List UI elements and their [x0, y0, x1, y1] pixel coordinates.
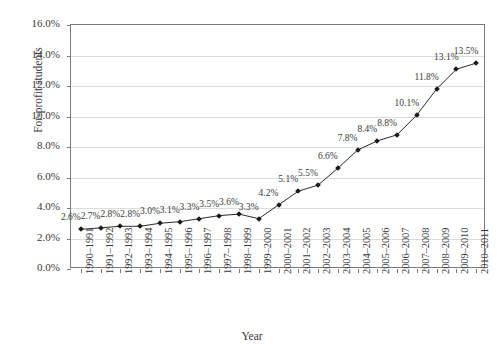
y-tick-label: 0.0%: [2, 262, 60, 273]
data-point-label: 8.4%: [357, 124, 377, 134]
data-point-label: 3.3%: [180, 202, 200, 212]
x-tick-mark: [417, 269, 418, 273]
data-point-label: 2.6%: [61, 212, 81, 222]
x-tick-mark: [397, 269, 398, 273]
data-point-label: 3.5%: [199, 199, 219, 209]
x-tick-label: 2006–2007: [400, 228, 411, 274]
y-tick-mark: [67, 269, 71, 270]
data-point-label: 3.1%: [160, 205, 180, 215]
data-point-label: 10.1%: [395, 98, 420, 108]
x-tick-label: 1997–1998: [222, 228, 233, 274]
data-point-label: 3.6%: [219, 197, 239, 207]
data-point-label: 2.8%: [120, 209, 140, 219]
x-tick-label: 1994–1995: [163, 228, 174, 274]
data-point-label: 7.8%: [338, 133, 358, 143]
x-tick-label: 2000–2001: [282, 228, 293, 274]
x-tick-label: 2007–2008: [420, 228, 431, 274]
x-tick-mark: [377, 269, 378, 273]
x-tick-mark: [279, 269, 280, 273]
x-tick-mark: [338, 269, 339, 273]
x-tick-label: 2008–2009: [440, 228, 451, 274]
x-tick-label: 1999–2000: [262, 228, 273, 274]
y-tick-label: 12.0%: [2, 79, 60, 90]
data-point-label: 13.5%: [454, 46, 479, 56]
x-tick-label: 1993–1994: [143, 228, 154, 274]
x-tick-label: 2010–2011: [479, 228, 490, 274]
x-tick-label: 2004–2005: [361, 228, 372, 274]
y-tick-label: 8.0%: [2, 140, 60, 151]
x-tick-label: 2001–2002: [301, 228, 312, 274]
x-tick-label: 2002–2003: [321, 228, 332, 274]
x-tick-mark: [298, 269, 299, 273]
x-tick-mark: [81, 269, 82, 273]
y-tick-label: 2.0%: [2, 232, 60, 243]
x-tick-mark: [140, 269, 141, 273]
data-point-label: 3.3%: [239, 202, 259, 212]
x-tick-label: 2005–2006: [380, 228, 391, 274]
x-tick-mark: [160, 269, 161, 273]
x-tick-mark: [456, 269, 457, 273]
y-tick-label: 6.0%: [2, 171, 60, 182]
x-tick-mark: [101, 269, 102, 273]
y-tick-label: 4.0%: [2, 201, 60, 212]
x-tick-label: 1996–1997: [202, 228, 213, 274]
data-point-label: 2.7%: [81, 211, 101, 221]
x-tick-mark: [358, 269, 359, 273]
x-tick-label: 1992–1993: [123, 228, 134, 274]
x-axis-title: Year: [0, 330, 504, 342]
data-point-label: 4.2%: [259, 188, 279, 198]
x-tick-mark: [476, 269, 477, 273]
x-tick-mark: [180, 269, 181, 273]
x-tick-label: 1995–1996: [183, 228, 194, 274]
data-point-label: 6.6%: [318, 151, 338, 161]
line-chart: For-profit students Year 0.0%2.0%4.0%6.0…: [0, 0, 504, 353]
x-tick-mark: [120, 269, 121, 273]
x-tick-label: 2009–2010: [459, 228, 470, 274]
data-point-label: 3.0%: [140, 206, 160, 216]
y-tick-label: 10.0%: [2, 110, 60, 121]
x-tick-mark: [259, 269, 260, 273]
x-tick-label: 1998–1999: [242, 228, 253, 274]
y-tick-label: 14.0%: [2, 49, 60, 60]
data-point-label: 2.8%: [100, 209, 120, 219]
data-point-label: 11.8%: [415, 72, 439, 82]
x-tick-mark: [199, 269, 200, 273]
x-tick-mark: [318, 269, 319, 273]
data-point-label: 8.8%: [377, 118, 397, 128]
x-tick-mark: [437, 269, 438, 273]
x-tick-mark: [239, 269, 240, 273]
x-tick-mark: [219, 269, 220, 273]
data-point-label: 5.1%: [278, 174, 298, 184]
x-tick-label: 2003–2004: [341, 228, 352, 274]
x-tick-label: 1990–1991: [84, 228, 95, 274]
x-tick-label: 1991–1992: [104, 228, 115, 274]
data-point-label: 5.5%: [298, 168, 318, 178]
y-tick-label: 16.0%: [2, 18, 60, 29]
